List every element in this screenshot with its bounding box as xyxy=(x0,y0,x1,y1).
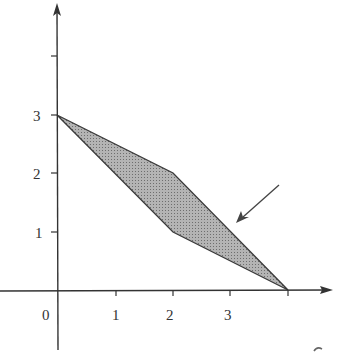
x-axis xyxy=(0,290,330,291)
y-tick-label-1: 1 xyxy=(35,225,43,241)
y-tick-label-2: 2 xyxy=(33,166,41,182)
x-tick-label-2: 2 xyxy=(166,307,174,323)
partial-mark xyxy=(314,348,322,351)
y-tick-label-3: 3 xyxy=(33,108,41,124)
x-tick-label-3: 3 xyxy=(224,307,232,323)
coordinate-diagram: 0 1 2 3 3 2 1 xyxy=(0,0,344,352)
origin-label: 0 xyxy=(42,307,50,323)
pointer-arrow xyxy=(243,185,279,217)
x-tick-label-1: 1 xyxy=(112,307,120,323)
y-axis xyxy=(57,8,58,350)
shaded-region xyxy=(57,115,288,290)
